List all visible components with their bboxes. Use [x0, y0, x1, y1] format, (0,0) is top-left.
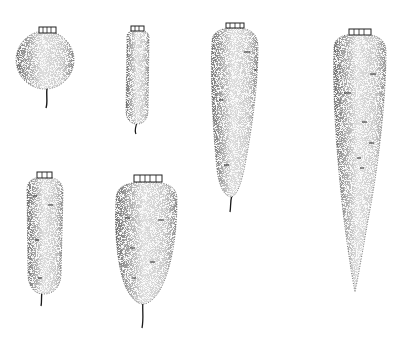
root-broad-conical	[115, 175, 177, 328]
crown	[131, 26, 144, 31]
root-medium-cylindrical	[27, 172, 63, 306]
crown	[37, 172, 52, 178]
crown	[134, 175, 162, 182]
root-short-cylindrical	[126, 26, 149, 134]
crown	[349, 29, 371, 35]
root-long-tapered	[211, 23, 258, 212]
root-very-long-conical	[334, 29, 386, 292]
crown	[39, 27, 56, 33]
illustration	[0, 0, 404, 344]
carrot-illustration	[0, 0, 404, 344]
root-round	[16, 27, 74, 108]
